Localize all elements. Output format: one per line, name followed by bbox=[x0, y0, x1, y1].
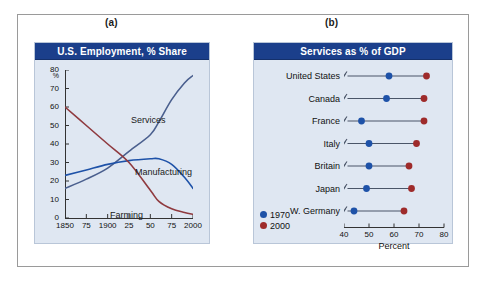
legend-item-2000: 2000 bbox=[260, 221, 290, 231]
x-tick-label: 75 bbox=[82, 221, 91, 230]
country-label: Britain bbox=[256, 161, 340, 171]
data-point-1970 bbox=[366, 163, 373, 170]
y-tick-label: 20 bbox=[41, 176, 59, 185]
legend-dot-icon bbox=[260, 211, 267, 218]
series-label-farming: Farming bbox=[110, 210, 143, 220]
legend-dot-icon bbox=[260, 222, 267, 229]
country-label: United States bbox=[256, 71, 340, 81]
data-point-1970 bbox=[351, 208, 358, 215]
data-point-2000 bbox=[406, 163, 413, 170]
axis-break-mark bbox=[344, 72, 347, 81]
y-tick-label: 30 bbox=[41, 158, 59, 167]
panel-label-a: (a) bbox=[105, 17, 118, 28]
x-tick-label: 1850 bbox=[56, 221, 74, 230]
country-label: Japan bbox=[256, 184, 340, 194]
axis-break-mark bbox=[344, 207, 347, 216]
data-point-2000 bbox=[423, 73, 430, 80]
axis-break-mark bbox=[344, 184, 347, 193]
x-tick-label: 2000 bbox=[184, 221, 202, 230]
data-point-1970 bbox=[363, 185, 370, 192]
y-tick-label: 70 bbox=[41, 84, 59, 93]
legend-label: 2000 bbox=[270, 221, 290, 231]
gdp-x-tick-label: 50 bbox=[365, 230, 374, 239]
plot-area-employment bbox=[65, 70, 193, 225]
y-tick-label: 50 bbox=[41, 121, 59, 130]
gdp-x-tick-label: 40 bbox=[340, 230, 349, 239]
gdp-x-axis bbox=[344, 224, 444, 228]
x-tick-label: 25 bbox=[125, 221, 134, 230]
gdp-x-tick-label: 60 bbox=[390, 230, 399, 239]
data-point-1970 bbox=[366, 140, 373, 147]
gdp-x-tick-label: 80 bbox=[440, 230, 449, 239]
axis-break-mark bbox=[344, 117, 347, 126]
series-label-manufacturing: Manufacturing bbox=[135, 167, 192, 177]
x-tick-label: 75 bbox=[167, 221, 176, 230]
gdp-dumbbell-chart bbox=[344, 60, 449, 245]
chart-title-employment: U.S. Employment, % Share bbox=[35, 43, 209, 60]
y-axis-unit-label: % bbox=[41, 72, 59, 79]
data-point-2000 bbox=[401, 208, 408, 215]
legend-item-1970: 1970 bbox=[260, 210, 290, 220]
panel-label-b: (b) bbox=[325, 17, 338, 28]
dumbbell-rows bbox=[344, 72, 430, 216]
y-tick-label: 10 bbox=[41, 195, 59, 204]
legend-label: 1970 bbox=[270, 210, 290, 220]
data-point-2000 bbox=[421, 118, 428, 125]
x-tick-label: 50 bbox=[146, 221, 155, 230]
axis-break-mark bbox=[344, 162, 347, 171]
chart-card-gdp: Services as % of GDP United StatesCanada… bbox=[253, 42, 453, 244]
chart-card-employment: U.S. Employment, % Share 010203040506070… bbox=[34, 42, 210, 244]
data-point-1970 bbox=[383, 95, 390, 102]
country-label: France bbox=[256, 116, 340, 126]
chart-title-gdp: Services as % of GDP bbox=[254, 43, 452, 60]
gdp-x-tick-label: 70 bbox=[415, 230, 424, 239]
y-tick-label: 40 bbox=[41, 139, 59, 148]
data-point-2000 bbox=[413, 140, 420, 147]
series-label-services: Services bbox=[131, 115, 166, 125]
data-point-1970 bbox=[358, 118, 365, 125]
figure-container: (a) (b) U.S. Employment, % Share 0102030… bbox=[0, 0, 486, 283]
axis-break-mark bbox=[344, 94, 347, 103]
data-point-1970 bbox=[386, 73, 393, 80]
data-point-2000 bbox=[421, 95, 428, 102]
employment-line-chart bbox=[65, 70, 193, 225]
axis-break-mark bbox=[344, 139, 347, 148]
y-tick-label: 60 bbox=[41, 102, 59, 111]
plot-area-gdp bbox=[344, 60, 449, 245]
data-point-2000 bbox=[408, 185, 415, 192]
country-label: Canada bbox=[256, 94, 340, 104]
country-label: Italy bbox=[256, 139, 340, 149]
x-tick-label: 1900 bbox=[99, 221, 117, 230]
gdp-x-axis-label: Percent bbox=[378, 241, 409, 251]
chart-body-gdp: United StatesCanadaFranceItalyBritainJap… bbox=[254, 60, 452, 245]
